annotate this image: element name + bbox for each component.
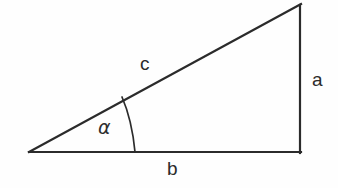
side-label-b: b: [167, 159, 178, 178]
side-label-c: c: [140, 54, 150, 73]
triangle-figure: c a b α: [0, 0, 338, 188]
triangle-hypotenuse-line-c: [29, 4, 301, 152]
angle-arc-alpha: [122, 97, 135, 152]
angle-label-alpha: α: [98, 118, 111, 137]
side-label-a: a: [312, 70, 323, 89]
